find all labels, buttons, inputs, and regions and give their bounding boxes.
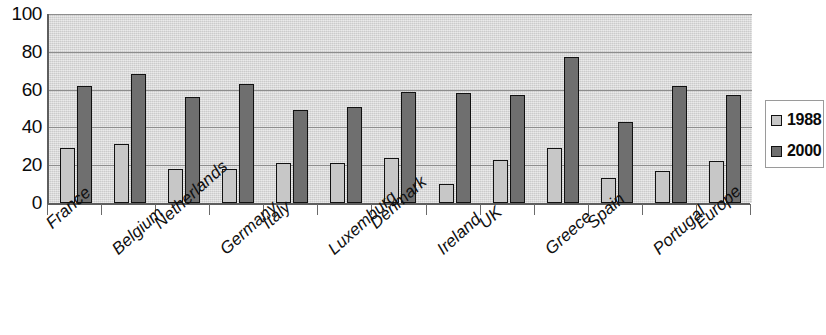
y-tick-label: 80: [0, 42, 42, 61]
legend-label: 2000: [787, 143, 821, 159]
chart-legend: 19882000: [765, 100, 824, 168]
bar-group: [698, 14, 752, 203]
legend-item: 2000: [771, 143, 821, 159]
bars-layer: [49, 14, 752, 203]
bar-group: [536, 14, 590, 203]
y-axis: 020406080100: [0, 0, 42, 215]
bar: [439, 184, 454, 203]
bar-group: [428, 14, 482, 203]
bar: [347, 107, 362, 203]
bar-group: [265, 14, 319, 203]
legend-label: 1988: [787, 112, 821, 128]
bar: [655, 171, 670, 203]
bar: [564, 57, 579, 203]
y-tick-label: 60: [0, 80, 42, 99]
bar: [114, 144, 129, 203]
bar: [618, 122, 633, 203]
bar: [456, 93, 471, 203]
bar: [131, 74, 146, 203]
y-tick-label: 40: [0, 117, 42, 136]
bar: [510, 95, 525, 203]
plot-area: [47, 14, 752, 203]
bar-group: [482, 14, 536, 203]
bar-group: [319, 14, 373, 203]
y-tick-label: 20: [0, 155, 42, 174]
bar: [293, 110, 308, 203]
bar-group: [103, 14, 157, 203]
bar: [330, 163, 345, 203]
bar: [276, 163, 291, 203]
x-axis-category-labels: FranceBelgiumNetherlandsGermanyItalyLuxe…: [0, 203, 826, 335]
legend-swatch: [771, 146, 782, 157]
bar: [239, 84, 254, 203]
y-tick-label: 100: [0, 4, 42, 23]
bar-group: [644, 14, 698, 203]
bar: [672, 86, 687, 203]
bar: [493, 160, 508, 203]
legend-swatch: [771, 115, 782, 126]
bar-chart: 020406080100 FranceBelgiumNetherlandsGer…: [0, 0, 826, 335]
bar-group: [590, 14, 644, 203]
bar-group: [49, 14, 103, 203]
legend-item: 1988: [771, 112, 821, 128]
bar: [547, 148, 562, 203]
